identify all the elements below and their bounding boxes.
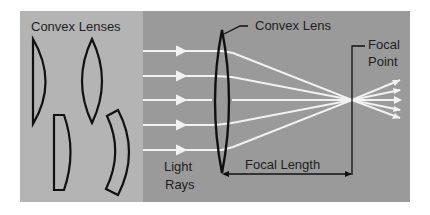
focal-point-label-line2: Point xyxy=(368,54,398,69)
convex-lens-label: Convex Lens xyxy=(255,18,331,33)
convex-lenses-title: Convex Lenses xyxy=(31,19,121,34)
light-rays-label-line2: Rays xyxy=(165,177,195,192)
focal-point-label-line1: Focal xyxy=(368,37,400,52)
light-rays-label-line1: Light xyxy=(164,159,193,174)
convex-lens-diagram: Convex Lenses Convex Lens xyxy=(0,0,430,215)
focal-length-label: Focal Length xyxy=(245,157,320,172)
